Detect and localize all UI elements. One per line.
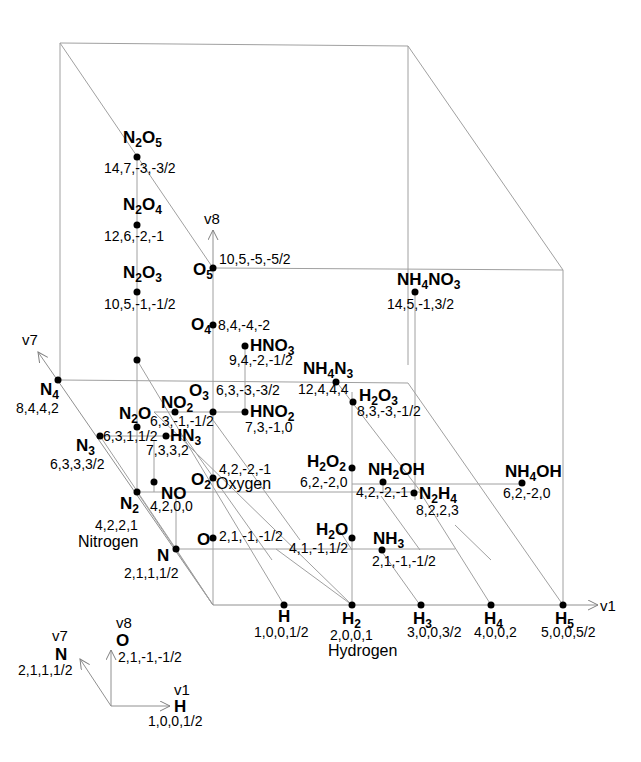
node-HNO3: HNO3 9,4,-2,-1/2 xyxy=(229,336,295,368)
node-N2O5: N2O5 14,7,-3,-3/2 xyxy=(104,128,176,176)
svg-text:2,1,1,1/2: 2,1,1,1/2 xyxy=(124,565,179,581)
node-H2: H2 2,0,0,1 xyxy=(330,609,373,643)
svg-text:8,2,2,3: 8,2,2,3 xyxy=(416,502,459,518)
svg-text:H2O: H2O xyxy=(316,520,348,542)
svg-text:10,5,-5,-5/2: 10,5,-5,-5/2 xyxy=(219,251,291,267)
svg-text:NH3: NH3 xyxy=(373,529,405,551)
svg-text:5,0,0,5/2: 5,0,0,5/2 xyxy=(541,624,596,640)
legend-v8: v8 xyxy=(116,614,132,631)
node-N: N 2,1,1,1/2 xyxy=(124,546,179,581)
node-N2O3: N2O3 10,5,-1,-1/2 xyxy=(104,263,176,312)
svg-text:2,0,0,1: 2,0,0,1 xyxy=(330,627,373,643)
axis-label-v1: v1 xyxy=(600,597,616,614)
node-NH4OH: NH4OH 6,2,-2,0 xyxy=(503,462,562,501)
svg-text:H2O2: H2O2 xyxy=(307,452,346,474)
node-O: O 2,1,-1,-1/2 xyxy=(197,528,283,549)
svg-text:NH4N3: NH4N3 xyxy=(303,359,354,381)
legend-N-coords: 2,1,1,1/2 xyxy=(18,662,73,678)
node-NH4NO3: NH4NO3 14,5,-1,3/2 xyxy=(387,270,461,312)
node-N3: N3 6,3,3,3/2 xyxy=(50,436,105,472)
svg-text:O: O xyxy=(197,530,210,549)
legend-H-coords: 1,0,0,1/2 xyxy=(148,713,203,729)
svg-text:O4: O4 xyxy=(191,315,211,337)
svg-text:1,0,0,1/2: 1,0,0,1/2 xyxy=(254,624,309,640)
svg-text:N3: N3 xyxy=(76,436,95,458)
svg-text:O2: O2 xyxy=(191,470,211,492)
node-NH4N3: NH4N3 12,4,4,4 xyxy=(298,359,354,397)
node-O3: O3 6,3,-3,-3/2 xyxy=(189,381,280,403)
node-H: H 1,0,0,1/2 xyxy=(254,607,309,640)
node-H2O3: H2O3 8,3,-3,-1/2 xyxy=(357,386,421,419)
svg-text:8,4,4,2: 8,4,4,2 xyxy=(16,400,59,416)
node-N2: N2 4,2,2,1 xyxy=(95,494,139,533)
node-NO: NO 4,2,0,0 xyxy=(150,484,193,514)
svg-text:N2O5: N2O5 xyxy=(123,128,162,150)
svg-text:2,1,-1,-1/2: 2,1,-1,-1/2 xyxy=(219,528,283,544)
svg-text:4,0,0,2: 4,0,0,2 xyxy=(474,624,517,640)
svg-text:6,3,3,3/2: 6,3,3,3/2 xyxy=(50,456,105,472)
node-N2O4: N2O4 12,6,-2,-1 xyxy=(104,195,164,244)
group-label-hydrogen: Hydrogen xyxy=(328,642,397,659)
group-label-nitrogen: Nitrogen xyxy=(78,533,138,550)
legend-v7: v7 xyxy=(52,627,68,644)
svg-text:3,0,0,3/2: 3,0,0,3/2 xyxy=(407,624,462,640)
node-H2O: H2O 4,1,-1,1/2 xyxy=(289,520,348,556)
svg-text:14,5,-1,3/2: 14,5,-1,3/2 xyxy=(387,296,454,312)
node-H3: H3 3,0,0,3/2 xyxy=(407,609,462,640)
group-label-oxygen: Oxygen xyxy=(216,475,271,492)
svg-text:6,2,-2,0: 6,2,-2,0 xyxy=(503,485,551,501)
svg-text:4,2,0,0: 4,2,0,0 xyxy=(150,498,193,514)
node-H2O2: H2O2 6,2,-2,0 xyxy=(300,452,348,490)
svg-text:NH2OH: NH2OH xyxy=(368,460,425,482)
svg-text:4,2,-2,-1: 4,2,-2,-1 xyxy=(356,484,408,500)
svg-text:O3: O3 xyxy=(189,381,209,403)
svg-text:4,2,2,1: 4,2,2,1 xyxy=(95,517,138,533)
node-H4: H4 4,0,0,2 xyxy=(474,609,517,640)
svg-text:NH4NO3: NH4NO3 xyxy=(397,270,461,292)
svg-text:4,1,-1,1/2: 4,1,-1,1/2 xyxy=(289,540,348,556)
basis-legend: v7 N 2,1,1,1/2 v8 O 2,1,-1,-1/2 v1 H 1,0… xyxy=(18,614,203,729)
svg-text:7,3,-1,0: 7,3,-1,0 xyxy=(245,419,293,435)
legend-O-coords: 2,1,-1,-1/2 xyxy=(118,649,182,665)
svg-text:2,1,-1,-1/2: 2,1,-1,-1/2 xyxy=(372,553,436,569)
svg-text:N: N xyxy=(157,546,169,565)
axis-label-v8: v8 xyxy=(204,210,220,227)
legend-v1: v1 xyxy=(174,681,190,698)
axis-label-v7: v7 xyxy=(22,331,38,348)
svg-text:N2O3: N2O3 xyxy=(123,263,162,285)
svg-text:8,4,-4,-2: 8,4,-4,-2 xyxy=(218,317,270,333)
node-H5: H5 5,0,0,5/2 xyxy=(541,609,596,640)
svg-text:N2O: N2O xyxy=(119,404,151,426)
node-HNO2: HNO2 7,3,-1,0 xyxy=(245,402,295,435)
svg-text:9,4,-2,-1/2: 9,4,-2,-1/2 xyxy=(229,352,293,368)
svg-text:12,6,-2,-1: 12,6,-2,-1 xyxy=(104,228,164,244)
legend-O: O xyxy=(116,631,129,650)
svg-text:8,3,-3,-1/2: 8,3,-3,-1/2 xyxy=(357,403,421,419)
compound-lattice-diagram: v1 v7 v8 H 1,0,0,1/2 H2 2,0,0,1 H3 3,0,0… xyxy=(0,0,641,762)
svg-text:10,5,-1,-1/2: 10,5,-1,-1/2 xyxy=(104,296,176,312)
svg-text:NH4OH: NH4OH xyxy=(505,462,562,484)
svg-text:7,3,3,2: 7,3,3,2 xyxy=(146,442,189,458)
svg-text:N2O4: N2O4 xyxy=(123,195,162,217)
svg-text:6,3,-3,-3/2: 6,3,-3,-3/2 xyxy=(216,382,280,398)
svg-text:N2: N2 xyxy=(120,494,139,516)
svg-text:12,4,4,4: 12,4,4,4 xyxy=(298,381,349,397)
node-O5: O5 10,5,-5,-5/2 xyxy=(193,251,291,282)
node-N2H4: N2H4 8,2,2,3 xyxy=(416,484,459,518)
node-N4: N4 8,4,4,2 xyxy=(16,380,59,416)
svg-text:N4: N4 xyxy=(40,380,59,402)
svg-text:14,7,-3,-3/2: 14,7,-3,-3/2 xyxy=(104,160,176,176)
node-O4: O4 8,4,-4,-2 xyxy=(191,315,270,337)
svg-text:6,2,-2,0: 6,2,-2,0 xyxy=(300,474,348,490)
